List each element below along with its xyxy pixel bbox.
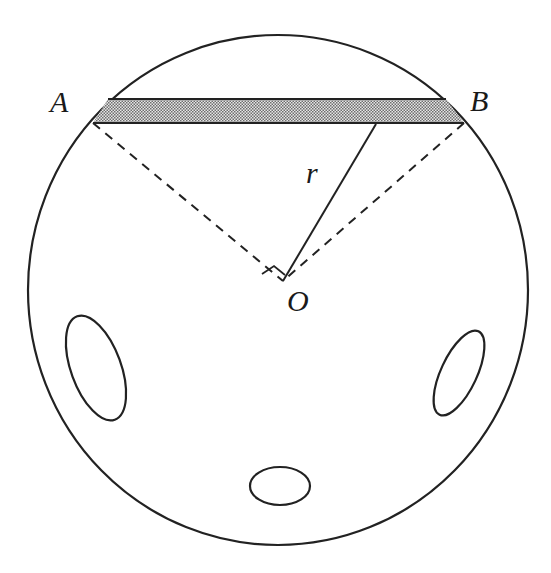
chord-strip-ab [93, 99, 464, 123]
bottom-hole [250, 467, 310, 505]
label-r: r [306, 156, 318, 189]
left-hole [54, 308, 139, 428]
geometry-diagram: A B r O [0, 0, 551, 573]
label-o: O [287, 284, 309, 317]
radius-line-r [283, 124, 376, 281]
label-a: A [48, 85, 69, 118]
dashed-line-oa [93, 123, 283, 281]
dashed-line-ob [283, 123, 464, 281]
right-hole [423, 324, 495, 423]
label-b: B [470, 84, 488, 117]
